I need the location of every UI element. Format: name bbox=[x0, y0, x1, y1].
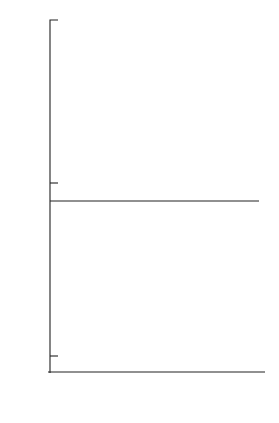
y-axis-line bbox=[50, 20, 58, 373]
figure bbox=[0, 0, 279, 423]
